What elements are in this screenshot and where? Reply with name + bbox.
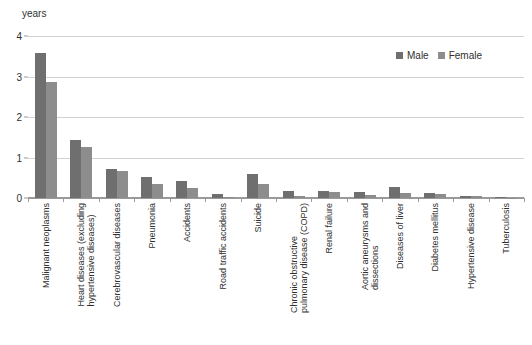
x-axis-label: Pneumonia bbox=[147, 203, 157, 249]
x-axis-tick-mark bbox=[134, 198, 135, 202]
bar-group bbox=[488, 36, 523, 198]
x-axis-tick-mark bbox=[241, 198, 242, 202]
bar-group bbox=[453, 36, 488, 198]
bar-group bbox=[347, 36, 382, 198]
x-axis-tick-mark bbox=[276, 198, 277, 202]
x-axis-tick-mark bbox=[170, 198, 171, 202]
x-label-cell: Chronic obstructive pulmonary disease (C… bbox=[276, 203, 311, 343]
x-axis-label: Suicide bbox=[253, 203, 263, 233]
bars-layer bbox=[28, 36, 524, 198]
bar-female[interactable] bbox=[152, 184, 163, 198]
bar-group bbox=[276, 36, 311, 198]
bar-group bbox=[311, 36, 346, 198]
x-label-cell: Cerebrovascular diseases bbox=[99, 203, 134, 343]
x-axis-tick-mark bbox=[524, 198, 525, 202]
x-axis-label: Cerebrovascular diseases bbox=[112, 203, 122, 307]
bar-group bbox=[134, 36, 169, 198]
x-axis-label: Renal failure bbox=[324, 203, 334, 254]
bar-group bbox=[63, 36, 98, 198]
bar-male[interactable] bbox=[141, 177, 152, 198]
y-axis-tick-label: 1 bbox=[16, 152, 22, 163]
x-label-cell: Hypertensive disease bbox=[453, 203, 488, 343]
bar-group bbox=[205, 36, 240, 198]
bar-female[interactable] bbox=[117, 171, 128, 198]
plot-area: 01234 bbox=[28, 36, 524, 198]
x-label-cell: Aortic aneurysms and dissections bbox=[347, 203, 382, 343]
x-axis-label: Tuberculosis bbox=[501, 203, 511, 254]
bar-male[interactable] bbox=[389, 187, 400, 198]
x-axis-tick-mark bbox=[311, 198, 312, 202]
x-label-cell: Tuberculosis bbox=[488, 203, 523, 343]
x-axis-label: Heart diseases (excluding hypertensive d… bbox=[76, 203, 96, 307]
y-axis-tick-label: 2 bbox=[16, 112, 22, 123]
x-label-cell: Diabetes mellitus bbox=[418, 203, 453, 343]
x-axis-tick-mark bbox=[453, 198, 454, 202]
y-axis-tick-label: 0 bbox=[16, 193, 22, 204]
x-axis-tick-mark bbox=[347, 198, 348, 202]
bar-male[interactable] bbox=[247, 174, 258, 198]
x-axis-category-labels: Malignant neoplasmsHeart diseases (exclu… bbox=[28, 203, 524, 343]
x-axis-label: Malignant neoplasms bbox=[41, 203, 51, 288]
x-axis-label: Diabetes mellitus bbox=[430, 203, 440, 272]
bar-group bbox=[241, 36, 276, 198]
x-axis-label: Hypertensive disease bbox=[466, 203, 476, 289]
bar-female[interactable] bbox=[81, 147, 92, 198]
bar-group bbox=[418, 36, 453, 198]
y-axis-unit-label: years bbox=[22, 8, 46, 19]
bar-group bbox=[170, 36, 205, 198]
x-axis-tick-marks bbox=[28, 198, 524, 202]
x-label-cell: Malignant neoplasms bbox=[28, 203, 63, 343]
x-label-cell: Pneumonia bbox=[134, 203, 169, 343]
bar-male[interactable] bbox=[318, 191, 329, 198]
bar-female[interactable] bbox=[258, 184, 269, 198]
x-axis-tick-mark bbox=[418, 198, 419, 202]
x-axis-label: Road traffic accidents bbox=[218, 203, 228, 289]
x-axis-label: Accidents bbox=[182, 203, 192, 242]
bar-male[interactable] bbox=[106, 169, 117, 198]
x-axis-tick-mark bbox=[28, 198, 29, 202]
y-axis-tick-label: 3 bbox=[16, 71, 22, 82]
x-axis-tick-mark bbox=[205, 198, 206, 202]
bar-male[interactable] bbox=[176, 181, 187, 198]
bar-female[interactable] bbox=[46, 82, 57, 198]
x-axis-tick-mark bbox=[63, 198, 64, 202]
x-label-cell: Accidents bbox=[170, 203, 205, 343]
bar-male[interactable] bbox=[35, 53, 46, 198]
bar-group bbox=[28, 36, 63, 198]
x-axis-tick-mark bbox=[382, 198, 383, 202]
bar-female[interactable] bbox=[187, 188, 198, 198]
x-axis-label: Diseases of liver bbox=[395, 203, 405, 269]
x-label-cell: Road traffic accidents bbox=[205, 203, 240, 343]
bar-group bbox=[99, 36, 134, 198]
x-label-cell: Suicide bbox=[241, 203, 276, 343]
x-label-cell: Diseases of liver bbox=[382, 203, 417, 343]
bar-chart: years Male Female 01234 Malignant neopla… bbox=[0, 0, 532, 345]
x-axis-label: Chronic obstructive pulmonary disease (C… bbox=[289, 203, 309, 313]
x-label-cell: Heart diseases (excluding hypertensive d… bbox=[63, 203, 98, 343]
y-axis-tick-label: 4 bbox=[16, 31, 22, 42]
x-label-cell: Renal failure bbox=[311, 203, 346, 343]
x-axis-tick-mark bbox=[489, 198, 490, 202]
bar-male[interactable] bbox=[70, 140, 81, 198]
bar-male[interactable] bbox=[283, 191, 294, 198]
x-axis-tick-mark bbox=[99, 198, 100, 202]
x-axis-label: Aortic aneurysms and dissections bbox=[360, 203, 380, 290]
bar-group bbox=[382, 36, 417, 198]
